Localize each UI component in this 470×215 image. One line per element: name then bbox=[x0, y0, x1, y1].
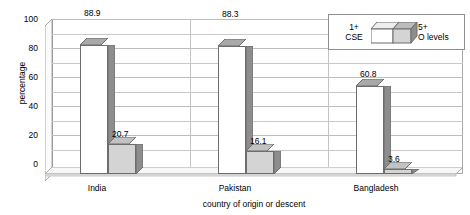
data-label-bangladesh-5plus-olevels: 3.6 bbox=[388, 154, 400, 164]
legend: 1+ CSE 5+ O levels bbox=[328, 14, 465, 50]
data-label-bangladesh-1plus-cse: 60.8 bbox=[360, 69, 377, 79]
legend-label-5plus-olevels-line1: 5+ bbox=[418, 22, 464, 32]
x-tick-label-india: India bbox=[67, 183, 127, 193]
legend-swatch-3d-box-icon bbox=[371, 22, 423, 44]
bar-india-5plus-olevels[interactable] bbox=[108, 144, 136, 174]
category-separator-1 bbox=[190, 19, 191, 174]
bar-top-face bbox=[80, 38, 108, 45]
legend-label-1plus-cse-line2: CSE bbox=[335, 32, 373, 42]
bar-india-1plus-cse[interactable] bbox=[80, 45, 108, 174]
bar-side-face bbox=[412, 169, 419, 174]
data-label-pakistan-1plus-cse: 88.3 bbox=[222, 9, 239, 19]
legend-label-5plus-olevels-line2: O levels bbox=[418, 32, 464, 42]
bar-side-face bbox=[136, 144, 143, 174]
legend-label-1plus-cse-line1: 1+ bbox=[335, 22, 373, 32]
bar-front-face bbox=[108, 144, 136, 174]
data-label-pakistan-5plus-olevels: 16.1 bbox=[250, 136, 267, 146]
y-axis-title: percentage bbox=[17, 43, 27, 123]
legend-label-5plus-olevels: 5+ O levels bbox=[418, 22, 464, 42]
bar-bangladesh-5plus-olevels[interactable] bbox=[384, 169, 412, 174]
bar-pakistan-5plus-olevels[interactable] bbox=[246, 151, 274, 174]
bar-front-face bbox=[356, 86, 384, 174]
bar-top-face bbox=[356, 79, 384, 86]
x-tick-label-bangladesh: Bangladesh bbox=[338, 183, 414, 193]
x-tick-label-pakistan: Pakistan bbox=[205, 183, 265, 193]
y-tick-label-20: 20 bbox=[4, 131, 38, 140]
y-tick-label-100: 100 bbox=[4, 15, 38, 24]
data-label-india-5plus-olevels: 20.7 bbox=[112, 129, 129, 139]
bar-front-face bbox=[246, 151, 274, 174]
y-tick-label-40: 40 bbox=[4, 102, 38, 111]
y-tick-label-0: 0 bbox=[4, 160, 38, 169]
y-tick-label-80: 80 bbox=[4, 44, 38, 53]
x-axis-title: country of origin or descent bbox=[45, 199, 463, 209]
bar-top-face bbox=[218, 39, 246, 46]
bar-bangladesh-1plus-cse[interactable] bbox=[356, 86, 384, 174]
bar-pakistan-1plus-cse[interactable] bbox=[218, 46, 246, 174]
data-label-india-1plus-cse: 88.9 bbox=[84, 8, 101, 18]
bar-front-face bbox=[384, 169, 412, 174]
bar-side-face bbox=[274, 151, 281, 174]
legend-label-1plus-cse: 1+ CSE bbox=[335, 22, 373, 42]
bar-chart: percentage 100 80 60 40 20 0 bbox=[0, 0, 470, 215]
bar-front-face bbox=[218, 46, 246, 174]
bar-front-face bbox=[80, 45, 108, 174]
y-tick-label-60: 60 bbox=[4, 73, 38, 82]
